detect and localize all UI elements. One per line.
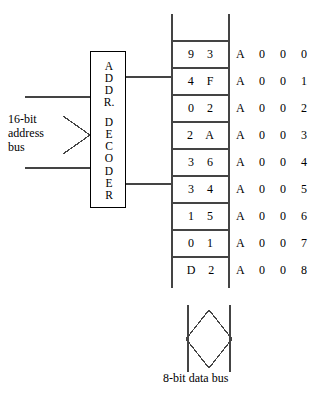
decoder-letter: D [105,72,113,84]
address-label: A 0 0 2 [236,95,320,122]
address-label: A 0 0 6 [236,203,320,230]
decoder-letter: D [105,165,113,177]
address-label: A 0 0 5 [236,176,320,203]
data-bus-label: 8-bit data bus [163,371,293,386]
memory-cell: 4 F [172,68,229,95]
memory-cell: 2 A [172,122,229,149]
address-decoder-label: A D D R. D E C O D E R [91,52,127,209]
memory-cell: 9 3 [172,41,229,68]
decoder-letter: O [105,152,113,164]
decoder-letter: R [105,189,113,201]
address-bus-label-line-2: address [8,126,64,140]
memory-cell: D 2 [172,257,229,284]
memory-decoder-diagram: 16-bit address bus A D D R. D E C O D E … [0,0,322,393]
address-label: A 0 0 0 [236,41,320,68]
decoder-letter: D [105,84,113,96]
memory-cell: 1 5 [172,203,229,230]
address-bus-label: 16-bit address bus [8,112,64,154]
decoder-letter: R. [104,96,115,108]
decoder-letter: E [105,177,112,189]
memory-cell: 0 2 [172,95,229,122]
address-label: A 0 0 4 [236,149,320,176]
address-list: A 0 0 0 A 0 0 1 A 0 0 2 A 0 0 3 A 0 0 4 … [236,14,320,288]
diamond-bus-icon [186,310,232,368]
address-label: A 0 0 1 [236,68,320,95]
address-decoder-block: A D D R. D E C O D E R [90,51,126,208]
address-label: A 0 0 3 [236,122,320,149]
memory-table: 9 3 4 F 0 2 2 A 3 6 3 4 1 5 0 1 D 2 [172,14,229,288]
memory-cell: 0 1 [172,230,229,257]
decoder-letter: C [105,140,113,152]
decoder-letter: E [105,128,112,140]
memory-cell: 3 6 [172,149,229,176]
memory-cell: 3 4 [172,176,229,203]
address-label: A 0 0 8 [236,257,320,284]
chevron-right-icon [63,116,90,154]
decoder-letter: A [105,60,113,72]
decoder-letter: D [105,116,113,128]
address-bus-label-line-3: bus [8,140,64,154]
address-bus-label-line-1: 16-bit [8,112,64,126]
memory-cell-empty-top [172,14,229,41]
address-label: A 0 0 7 [236,230,320,257]
